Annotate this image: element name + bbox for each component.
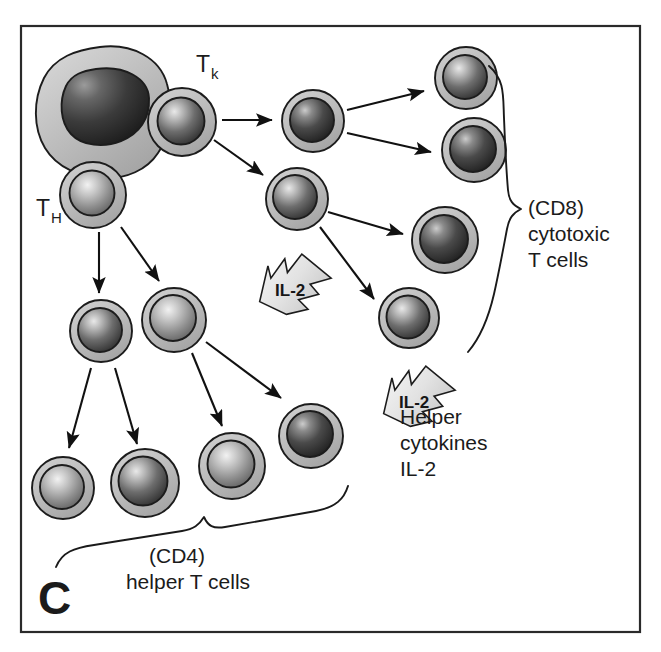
cd4-helper-cell-4	[279, 404, 343, 468]
cd4-helper-cell-3	[199, 433, 265, 499]
cytokines-label-line-1: Helper	[400, 405, 462, 428]
cytokines-label-line-2: cytokines	[400, 431, 488, 454]
panel-letter: C	[38, 572, 71, 624]
cd4-label-line-1: (CD4)	[149, 544, 205, 567]
cd8-cytotoxic-cell-3	[412, 207, 478, 273]
t-cell-activation-diagram: IL-2 IL-2 T k T H (CD8) cytotoxic T cell…	[0, 0, 661, 652]
cd4-label-line-2: helper T cells	[126, 570, 250, 593]
th-label-subscript: H	[51, 209, 62, 226]
tk-label-base: T	[196, 51, 210, 77]
cd8-cytotoxic-cell-4	[379, 288, 439, 348]
cytokines-label-line-3: IL-2	[400, 457, 436, 480]
cd8-label-line-2: cytotoxic	[528, 222, 610, 245]
cd8-label-line-3: T cells	[528, 248, 588, 271]
il2-arrow-label-upper: IL-2	[275, 281, 305, 300]
cd4-helper-cell-2	[111, 449, 179, 517]
cd8-label-line-1: (CD8)	[528, 196, 584, 219]
th-label-base: T	[36, 195, 50, 221]
cd8-cytotoxic-cell-1	[435, 47, 497, 109]
figure-panel-c: IL-2 IL-2 T k T H (CD8) cytotoxic T cell…	[0, 0, 661, 652]
th-intermediate-right	[142, 288, 206, 352]
cd8-cytotoxic-cell-2	[442, 118, 506, 182]
tk-precursor-cell	[148, 88, 216, 156]
tk-intermediate-upper	[282, 90, 344, 152]
th-precursor-cell	[60, 162, 126, 228]
cd4-helper-cell-1	[32, 457, 94, 519]
tk-intermediate-lower	[266, 168, 328, 230]
th-intermediate-left	[70, 300, 132, 362]
tk-label-subscript: k	[211, 65, 219, 82]
